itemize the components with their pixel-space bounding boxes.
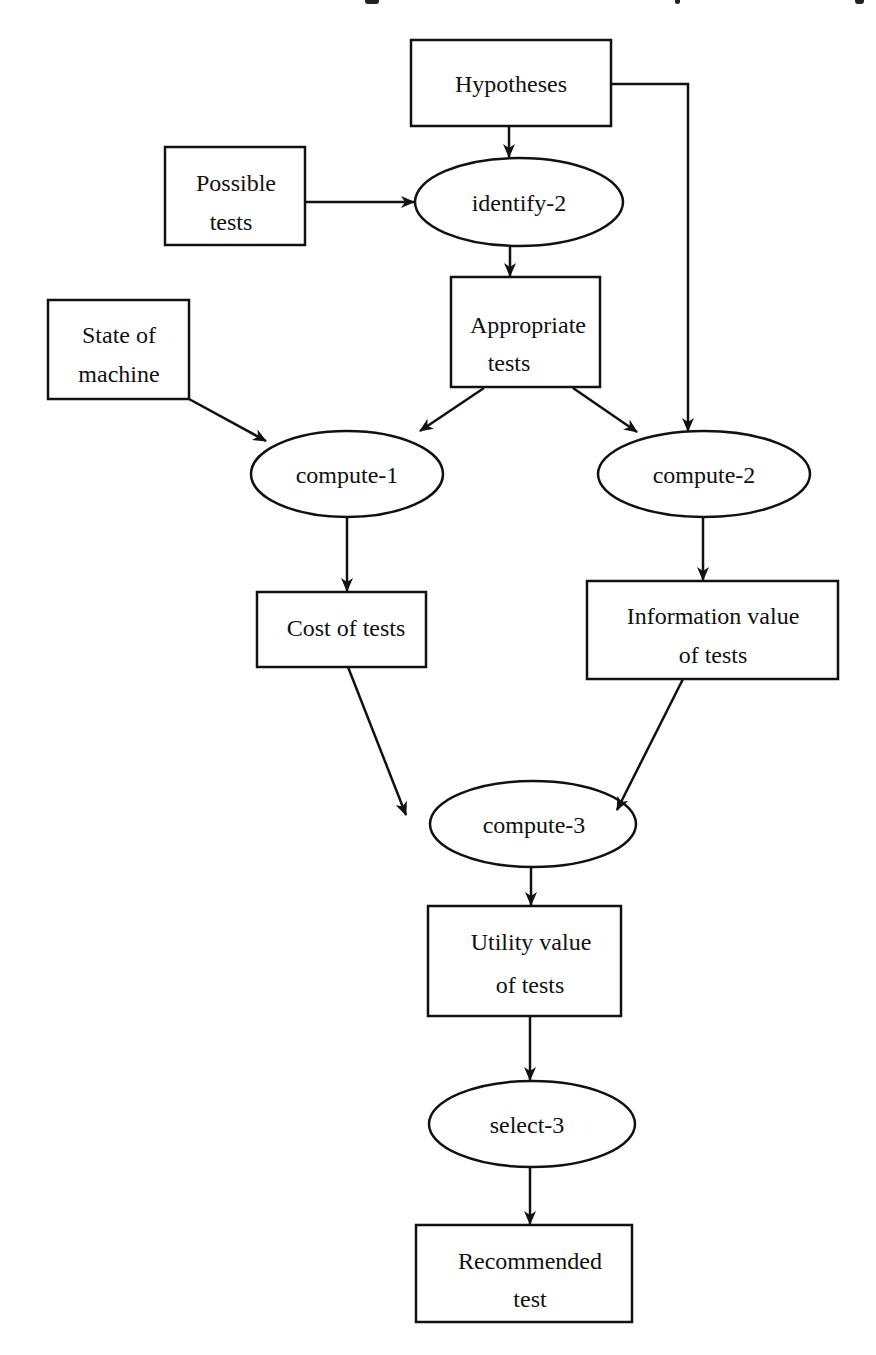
label-recommended-test-line2: test — [513, 1286, 547, 1312]
edge-appropriate-to-compute2 — [573, 388, 637, 432]
flowchart-canvas: Hypotheses Possible tests identify-2 App… — [0, 0, 876, 1355]
node-utility-value — [428, 906, 621, 1016]
label-identify-2: identify-2 — [472, 190, 567, 216]
label-utility-value-line1: Utility value — [471, 929, 592, 955]
label-select-3: select-3 — [490, 1112, 565, 1138]
label-appropriate-tests-line2: tests — [488, 350, 531, 376]
label-compute-2: compute-2 — [653, 462, 756, 488]
label-utility-value-line2: of tests — [496, 972, 565, 998]
diagram-svg: Hypotheses Possible tests identify-2 App… — [0, 0, 876, 1355]
label-possible-tests-line1: Possible — [196, 170, 276, 196]
label-hypotheses: Hypotheses — [455, 71, 567, 97]
label-appropriate-tests-line1: Appropriate — [470, 312, 586, 338]
label-cost-of-tests: Cost of tests — [287, 615, 406, 641]
label-compute-3: compute-3 — [483, 812, 586, 838]
label-information-value-line1: Information value — [627, 603, 800, 629]
edge-state-to-compute1 — [189, 399, 266, 441]
label-state-of-machine-line1: State of — [82, 322, 156, 348]
edge-cost-to-compute3 — [348, 667, 406, 815]
label-state-of-machine-line2: machine — [78, 361, 159, 387]
label-information-value-line2: of tests — [679, 642, 748, 668]
label-recommended-test-line1: Recommended — [458, 1248, 602, 1274]
label-compute-1: compute-1 — [296, 462, 399, 488]
edge-appropriate-to-compute1 — [420, 388, 484, 431]
edge-hypotheses-to-compute2 — [611, 84, 688, 431]
edge-info-to-compute3 — [617, 679, 683, 810]
label-possible-tests-line2: tests — [210, 209, 253, 235]
